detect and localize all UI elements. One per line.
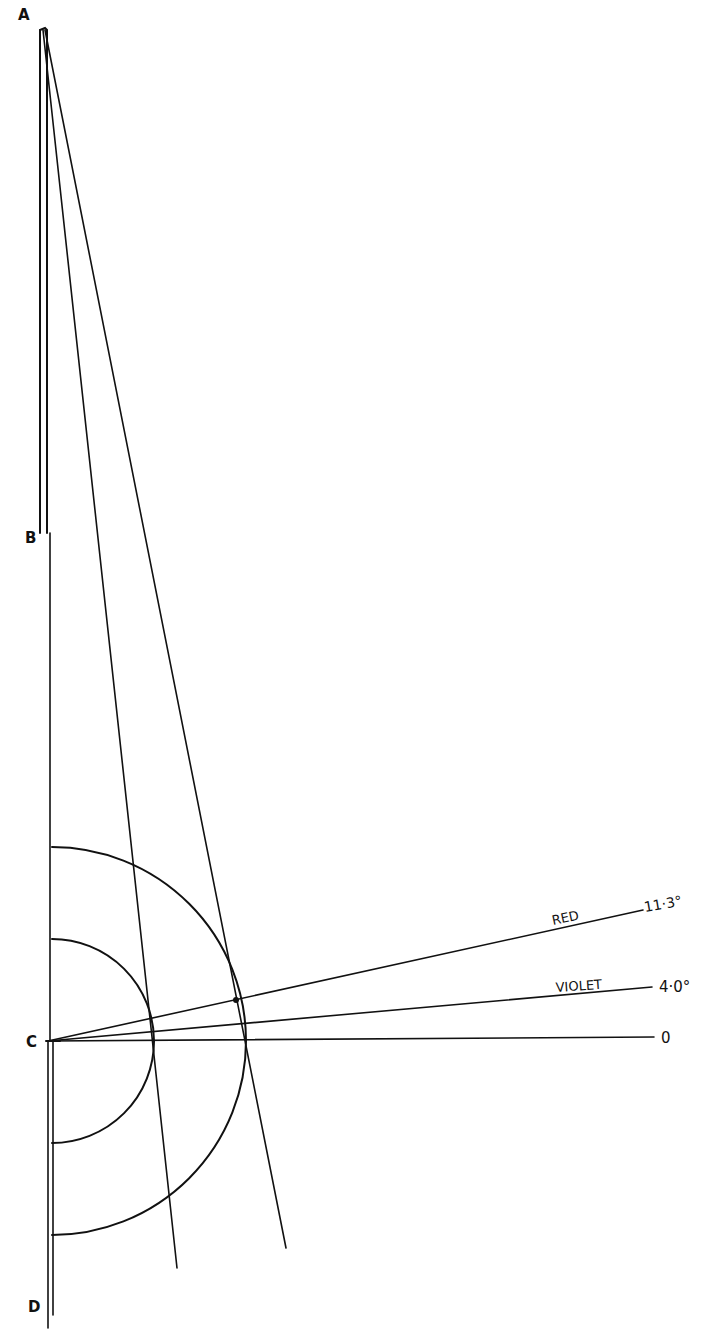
intersection-point bbox=[233, 997, 239, 1003]
label-b: B bbox=[25, 529, 36, 547]
label-a: A bbox=[18, 6, 30, 24]
rainbow-geometry-diagram: A B C D RED 11·3° VIOLET 4·0° 0 bbox=[0, 0, 710, 1340]
label-violet-angle: 4·0° bbox=[659, 978, 690, 996]
ray-violet bbox=[48, 987, 652, 1041]
label-red-angle: 11·3° bbox=[643, 893, 683, 915]
rod-ab bbox=[40, 28, 47, 533]
label-zero-angle: 0 bbox=[661, 1029, 671, 1047]
line-a-inner bbox=[43, 30, 177, 1268]
label-c: C bbox=[26, 1033, 37, 1051]
ray-zero bbox=[48, 1037, 654, 1041]
line-a-outer bbox=[45, 30, 286, 1248]
label-d: D bbox=[28, 1298, 40, 1316]
ray-red bbox=[48, 910, 643, 1041]
